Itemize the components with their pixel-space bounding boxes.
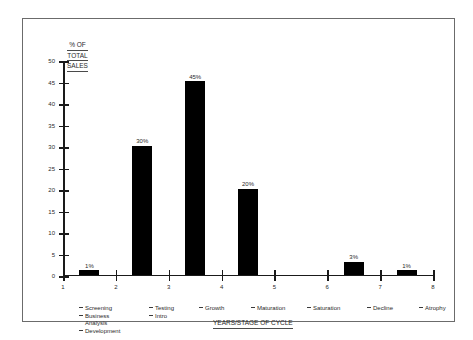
stage-dash-icon (79, 330, 83, 331)
stage-dash-icon (251, 307, 255, 308)
stage-label: Decline (367, 305, 393, 313)
y-tick-mark (59, 255, 69, 257)
y-tick-label: 15 (48, 209, 55, 215)
stage-group: Atrophy (419, 305, 446, 313)
x-tick-label: 1 (61, 284, 64, 290)
stage-dash-icon (149, 307, 153, 308)
y-tick-mark (59, 190, 69, 192)
stage-label-text: Analysis (85, 320, 107, 326)
bar-value-label: 1% (85, 263, 94, 269)
stage-label-text: Screening (85, 305, 112, 311)
bar-value-label: 3% (349, 254, 358, 260)
y-tick-label: 25 (48, 166, 55, 172)
stage-label-text: Intro (155, 313, 167, 319)
y-tick-mark (59, 147, 69, 149)
y-axis-title-line-2: TOTAL (67, 52, 88, 62)
bar (79, 270, 99, 274)
stage-dash-icon (419, 307, 423, 308)
y-tick-mark (59, 61, 69, 63)
y-tick-mark (59, 169, 69, 171)
y-tick-mark (59, 104, 69, 106)
stage-label: Development (79, 328, 120, 336)
y-tick-mark (59, 83, 69, 85)
x-tick-mark (116, 270, 118, 281)
stage-label: Testing (149, 305, 174, 313)
bar (132, 146, 152, 275)
x-tick-mark (380, 270, 382, 281)
stage-group: TestingIntro (149, 305, 174, 320)
y-tick-label: 35 (48, 123, 55, 129)
stage-dash-icon (199, 307, 203, 308)
bar-value-label: 20% (242, 181, 254, 187)
stage-legend: ScreeningBusinessAnalysisDevelopmentTest… (79, 305, 473, 340)
stage-dash-icon (149, 315, 153, 316)
bar (397, 270, 417, 274)
y-axis-title-line-1: % OF (67, 41, 88, 51)
bar (344, 262, 364, 275)
bar-value-label: 45% (189, 74, 201, 80)
stage-label-text: Saturation (313, 305, 340, 311)
x-tick-label: 5 (273, 284, 276, 290)
y-tick-label: 40 (48, 101, 55, 107)
y-tick-label: 5 (52, 252, 55, 258)
stage-label: Atrophy (419, 305, 446, 313)
stage-label: Business (79, 313, 120, 321)
stage-label-text: Development (85, 328, 120, 334)
stage-label-text: Decline (373, 305, 393, 311)
y-tick-label: 0 (52, 273, 55, 279)
stage-dash-icon (367, 307, 371, 308)
x-tick-label: 2 (114, 284, 117, 290)
stage-dash-icon (79, 315, 83, 316)
stage-label-text: Testing (155, 305, 174, 311)
stage-group: Growth (199, 305, 224, 313)
stage-label: Screening (79, 305, 120, 313)
y-tick-label: 30 (48, 144, 55, 150)
x-tick-label: 3 (167, 284, 170, 290)
x-tick-mark (222, 270, 224, 281)
y-tick-label: 20 (48, 187, 55, 193)
y-tick-mark (59, 126, 69, 128)
stage-group: Decline (367, 305, 393, 313)
bar-value-label: 30% (136, 138, 148, 144)
stage-label-text: Growth (205, 305, 224, 311)
stage-dash-icon (79, 307, 83, 308)
x-tick-label: 7 (378, 284, 381, 290)
y-tick-mark (59, 233, 69, 235)
stage-label: Maturation (251, 305, 285, 313)
x-tick-label: 4 (220, 284, 223, 290)
y-tick-mark (59, 212, 69, 214)
x-tick-label: 8 (431, 284, 434, 290)
bar-value-label: 1% (402, 263, 411, 269)
stage-label: Growth (199, 305, 224, 313)
stage-label-text: Business (85, 313, 109, 319)
plot-area: 05101520253035404550 12345678 1%30%45%20… (63, 61, 433, 276)
y-tick-label: 50 (48, 58, 55, 64)
stage-group: Maturation (251, 305, 285, 313)
bar (185, 81, 205, 275)
stage-group: Saturation (307, 305, 340, 313)
stage-label: Analysis (79, 320, 120, 328)
x-tick-mark (327, 270, 329, 281)
y-tick-label: 10 (48, 230, 55, 236)
x-axis-line (63, 275, 433, 277)
x-tick-mark (433, 270, 435, 281)
x-tick-label: 6 (326, 284, 329, 290)
stage-label: Intro (149, 313, 174, 321)
bar (238, 189, 258, 275)
x-tick-mark (63, 270, 65, 281)
chart-frame: % OF TOTAL SALES 05101520253035404550 12… (22, 18, 455, 322)
stage-label-text: Atrophy (425, 305, 446, 311)
stage-dash-icon (307, 307, 311, 308)
x-tick-mark (274, 270, 276, 281)
stage-group: ScreeningBusinessAnalysisDevelopment (79, 305, 120, 335)
y-tick-label: 45 (48, 80, 55, 86)
stage-label-text: Maturation (257, 305, 285, 311)
x-tick-mark (169, 270, 171, 281)
stage-label: Saturation (307, 305, 340, 313)
